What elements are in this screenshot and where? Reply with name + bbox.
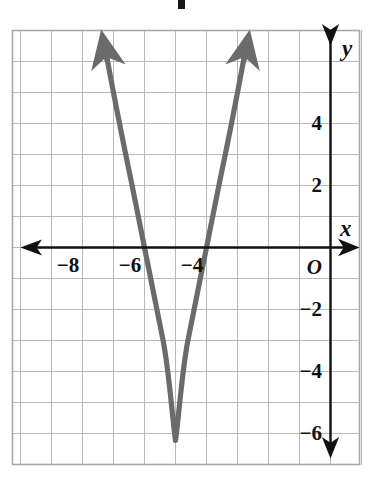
x-tick-label-neg6: −6 [119, 253, 141, 277]
y-tick-label-2: 2 [312, 173, 323, 197]
coordinate-plane: −8 −6 −4 4 2 −2 −4 −6 O x y [0, 0, 373, 487]
graph-figure: −8 −6 −4 4 2 −2 −4 −6 O x y [0, 0, 373, 487]
origin-label: O [307, 255, 322, 279]
x-tick-label-neg8: −8 [57, 253, 79, 277]
x-axis-label: x [339, 216, 352, 241]
y-axis-label: y [339, 36, 353, 61]
y-tick-label-neg6: −6 [300, 421, 322, 445]
y-tick-label-neg2: −2 [300, 297, 322, 321]
x-tick-label-neg4: −4 [181, 253, 204, 277]
y-tick-label-4: 4 [312, 111, 323, 135]
y-tick-label-neg4: −4 [300, 359, 323, 383]
